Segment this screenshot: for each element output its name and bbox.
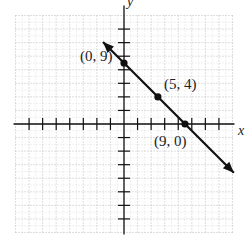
point-label: (9, 0) [154,133,187,150]
coordinate-plane: (0, 9)(5, 4)(9, 0) y x [0,0,247,241]
point-label: (0, 9) [80,48,113,65]
point-marker [154,93,161,100]
x-axis-label: x [237,123,245,138]
point-marker [120,59,127,66]
point-label: (5, 4) [164,76,197,93]
y-axis-label: y [125,0,134,9]
point-marker [181,120,188,127]
axes [14,6,235,235]
points: (0, 9)(5, 4)(9, 0) [80,48,196,150]
